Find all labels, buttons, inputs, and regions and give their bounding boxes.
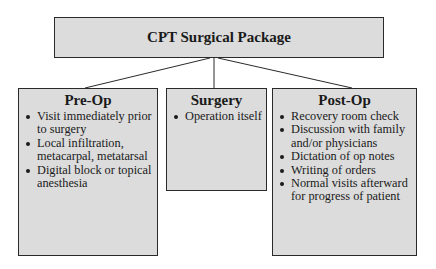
- post-op-node: Post-Op Recovery room check Discussion w…: [272, 88, 417, 256]
- surgery-list: Operation itself: [167, 110, 266, 123]
- list-item: Recovery room check: [291, 110, 412, 123]
- surgery-heading: Surgery: [167, 92, 266, 109]
- list-item: Normal visits afterward for progress of …: [291, 177, 412, 204]
- diagram-title: CPT Surgical Package: [147, 29, 291, 46]
- pre-op-heading: Pre-Op: [19, 92, 157, 109]
- list-item: Writing of orders: [291, 164, 412, 177]
- root-node: CPT Surgical Package: [54, 17, 384, 58]
- pre-op-list: Visit immediately prior to surgery Local…: [19, 110, 157, 190]
- post-op-heading: Post-Op: [273, 92, 416, 109]
- list-item: Operation itself: [185, 110, 262, 123]
- list-item: Local infiltration, metacarpal, metatars…: [37, 137, 153, 164]
- post-op-list: Recovery room check Discussion with fami…: [273, 110, 416, 204]
- pre-op-node: Pre-Op Visit immediately prior to surger…: [18, 88, 158, 256]
- list-item: Discussion with family and/or physicians: [291, 123, 412, 150]
- list-item: Visit immediately prior to surgery: [37, 110, 153, 137]
- surgery-node: Surgery Operation itself: [166, 88, 267, 191]
- list-item: Digital block or topical anesthesia: [37, 164, 153, 191]
- list-item: Dictation of op notes: [291, 150, 412, 163]
